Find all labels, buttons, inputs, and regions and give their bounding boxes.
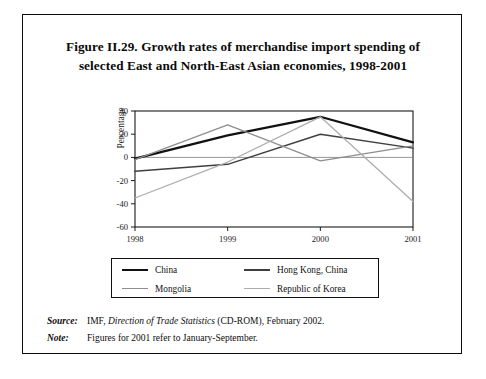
svg-text:-40: -40 bbox=[117, 199, 128, 209]
legend-swatch-mongolia bbox=[122, 288, 148, 289]
figure-title-line-1: Figure II.29. Growth rates of merchandis… bbox=[23, 37, 463, 56]
svg-text:1998: 1998 bbox=[126, 234, 143, 244]
legend-label-china: China bbox=[155, 265, 177, 275]
source-row: Source: IMF, Direction of Trade Statisti… bbox=[47, 313, 447, 330]
source-text-after: (CD-ROM), February 2002. bbox=[217, 316, 324, 326]
legend-entry-republic-of-korea: Republic of Korea bbox=[244, 284, 390, 294]
svg-text:2000: 2000 bbox=[312, 234, 329, 244]
source-publication-title: Direction of Trade Statistics bbox=[108, 316, 215, 326]
svg-text:2001: 2001 bbox=[404, 234, 421, 244]
legend-entry-hong-kong-china: Hong Kong, China bbox=[244, 265, 390, 275]
note-tag: Note: bbox=[47, 330, 87, 347]
note-row: Note: Figures for 2001 refer to January-… bbox=[47, 330, 447, 347]
note-text: Figures for 2001 refer to January-Septem… bbox=[87, 330, 447, 347]
chart-plot-area: 40200-20-40-601998199920002001 bbox=[23, 93, 463, 253]
svg-text:-60: -60 bbox=[117, 222, 128, 232]
legend-grid: China Hong Kong, China Mongolia Republic… bbox=[112, 259, 378, 297]
y-axis-title: Percentage bbox=[116, 88, 126, 168]
legend-swatch-republic-of-korea bbox=[244, 288, 270, 289]
chart-legend: China Hong Kong, China Mongolia Republic… bbox=[111, 258, 379, 298]
source-text: IMF, Direction of Trade Statistics (CD-R… bbox=[87, 313, 447, 330]
svg-text:-20: -20 bbox=[117, 176, 128, 186]
line-chart-svg: 40200-20-40-601998199920002001 bbox=[23, 93, 463, 253]
source-text-before: IMF, bbox=[87, 316, 106, 326]
figure-frame: Figure II.29. Growth rates of merchandis… bbox=[22, 14, 462, 354]
legend-entry-mongolia: Mongolia bbox=[122, 284, 244, 294]
legend-swatch-hong-kong-china bbox=[244, 269, 270, 271]
legend-entry-china: China bbox=[122, 265, 244, 275]
figure-title-line-2: selected East and North-East Asian econo… bbox=[23, 56, 463, 75]
legend-swatch-china bbox=[122, 269, 148, 271]
legend-label-mongolia: Mongolia bbox=[155, 284, 191, 294]
legend-label-hong-kong-china: Hong Kong, China bbox=[277, 265, 348, 275]
svg-text:1999: 1999 bbox=[219, 234, 236, 244]
source-tag: Source: bbox=[47, 313, 87, 330]
legend-label-republic-of-korea: Republic of Korea bbox=[277, 284, 346, 294]
figure-title: Figure II.29. Growth rates of merchandis… bbox=[23, 37, 463, 75]
figure-notes: Source: IMF, Direction of Trade Statisti… bbox=[47, 313, 447, 347]
